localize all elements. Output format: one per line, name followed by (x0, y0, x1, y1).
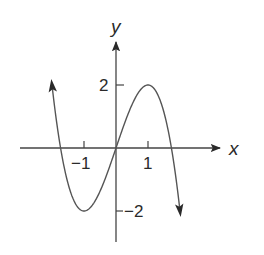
y-tick-label-neg2: −2 (124, 202, 143, 221)
function-graph: y x −1 1 2 −2 (0, 0, 264, 255)
x-axis-label: x (228, 138, 240, 159)
x-tick-label-neg1: −1 (71, 154, 90, 173)
x-tick-label-pos1: 1 (143, 154, 152, 173)
y-axis-label: y (109, 16, 122, 37)
y-tick-label-pos2: 2 (99, 76, 108, 95)
